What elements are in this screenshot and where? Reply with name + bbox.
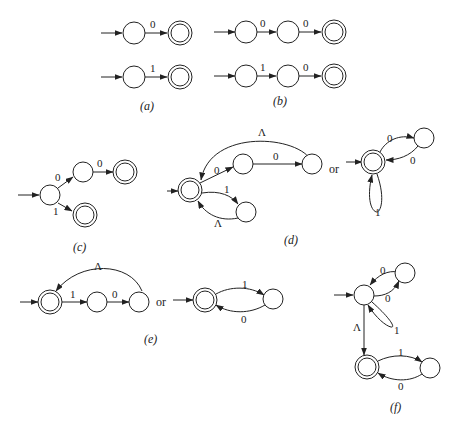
edge-label: 0 (241, 313, 247, 325)
self-loop-edge (368, 302, 393, 327)
edge-label: 1 (70, 288, 76, 300)
state (40, 185, 60, 205)
edge-label: 0 (387, 132, 393, 144)
edge-label: 0 (398, 380, 404, 392)
panel-b: 0 0 1 0 (b) (214, 17, 346, 108)
or-connector: or (156, 295, 166, 309)
state (263, 289, 283, 309)
state (73, 162, 93, 182)
caption-a: (a) (140, 99, 154, 113)
state (123, 22, 145, 44)
edge-label: 1 (394, 324, 400, 336)
state (87, 292, 107, 312)
edge-label: 0 (97, 157, 103, 169)
caption-f: (f) (390, 400, 401, 414)
edge-label: 0 (380, 264, 386, 276)
accepting-state-inner (364, 153, 382, 171)
edge-label: 1 (224, 183, 230, 195)
accepting-state-inner (181, 181, 199, 199)
caption-b: (b) (273, 94, 287, 108)
caption-e: (e) (144, 332, 157, 346)
panel-f: 0 0 1 Λ 1 0 (f) (334, 263, 440, 414)
edge-label: 0 (410, 154, 416, 166)
edge-label: Λ (214, 217, 222, 229)
state (236, 202, 256, 222)
state (123, 66, 145, 88)
edge-label: Λ (258, 126, 266, 138)
accepting-state-inner (76, 206, 94, 224)
transition-edge (202, 192, 238, 204)
transition-edge (216, 305, 265, 312)
panel-e: Λ 1 0 or 1 0 (e) (20, 260, 283, 346)
edge-label: 0 (112, 288, 118, 300)
state (129, 292, 149, 312)
state (277, 21, 299, 43)
panel-d: Λ 0 0 1 Λ or 0 0 1 (d) (167, 126, 434, 247)
state (395, 263, 415, 283)
panel-a: 0 1 (a) (101, 18, 192, 113)
edge-label: 0 (55, 171, 61, 183)
transition-edge (380, 137, 414, 152)
state (420, 358, 440, 378)
state (235, 21, 257, 43)
accepting-state-inner (171, 68, 189, 86)
accepting-state-inner (196, 291, 214, 309)
edge-label: 1 (375, 206, 381, 218)
caption-d: (d) (284, 233, 298, 247)
transition-edge (378, 373, 422, 380)
state (277, 65, 299, 87)
edge-label: 1 (260, 61, 266, 73)
accepting-state-inner (358, 358, 376, 376)
transition-edge (58, 203, 72, 211)
state (414, 128, 434, 148)
edge-label: 0 (303, 61, 309, 73)
edge-label: 1 (53, 205, 59, 217)
edge-label: 0 (260, 17, 266, 29)
state (302, 154, 322, 174)
state (233, 154, 253, 174)
state (235, 65, 257, 87)
edge-label: 1 (150, 62, 156, 74)
accepting-state-inner (116, 163, 134, 181)
state (354, 285, 374, 305)
edge-label: 0 (385, 292, 391, 304)
edge-label: 0 (214, 164, 220, 176)
edge-label: Λ (353, 321, 361, 333)
accepting-state-inner (325, 67, 343, 85)
edge-label: 0 (150, 18, 156, 30)
caption-c: (c) (73, 240, 86, 254)
automata-figure: 0 1 (a) 0 0 1 0 (b) (0, 0, 450, 430)
edge-label: 0 (273, 150, 279, 162)
accepting-state-inner (171, 24, 189, 42)
edge-label: 1 (398, 346, 404, 358)
or-connector: or (329, 162, 339, 176)
edge-label: 0 (303, 17, 309, 29)
edge-label: Λ (94, 260, 102, 272)
edge-label: 1 (242, 278, 248, 290)
accepting-state-inner (325, 23, 343, 41)
accepting-state-inner (41, 293, 59, 311)
panel-c: 0 0 1 (c) (18, 157, 137, 254)
transition-edge (216, 288, 264, 295)
